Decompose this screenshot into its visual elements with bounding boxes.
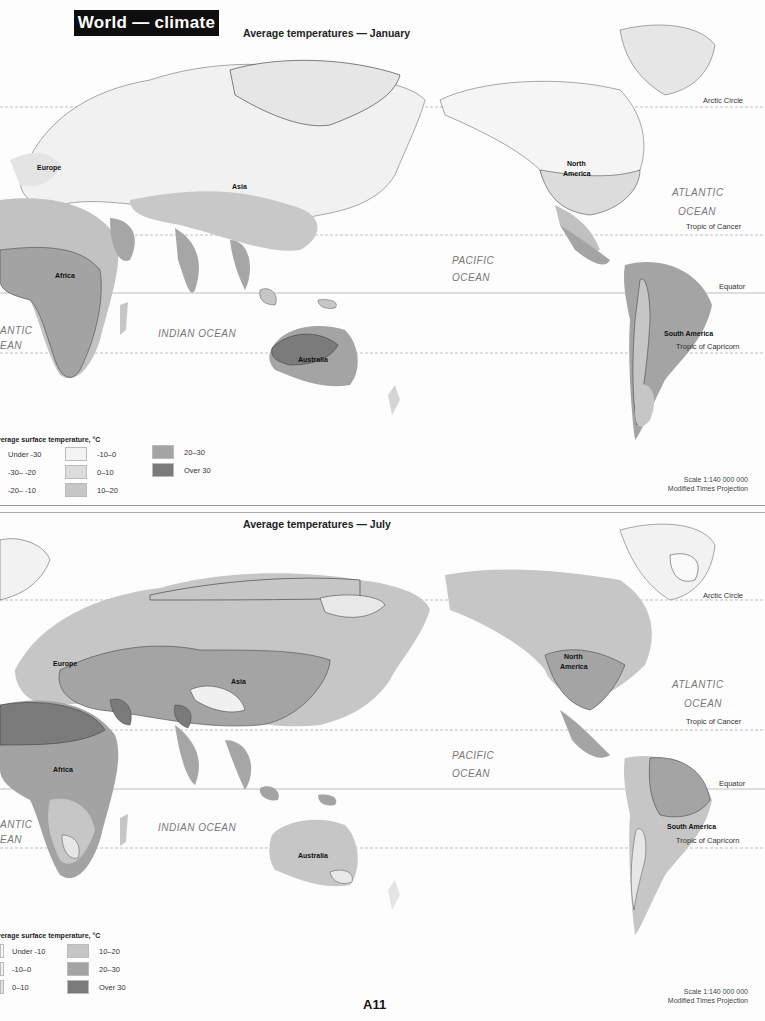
label-north-america-jul: North [564,653,583,660]
scale-text-jul: Scale 1:140 000 000 [668,987,748,996]
label-north-america-jul-2: America [560,663,588,670]
legend-item: -10–0 [0,962,31,976]
label-north-america-jan-2: America [563,170,591,177]
tropic-capricorn-label-jul: Tropic of Capricorn [676,836,740,845]
legend-item: 10–20 [67,944,120,958]
ocean-atlantic-jul: ATLANTIC [672,679,724,690]
ocean-atlantic-west-jul: ANTIC [0,819,33,830]
legend-swatch [67,944,89,958]
equator-label-jan: Equator [719,282,745,291]
label-australia-jan: Australia [298,356,328,363]
legend-swatch [0,944,4,958]
ocean-pacific-jan: PACIFIC [452,255,494,266]
legend-item: -20– -10 [8,486,36,495]
legend-swatch [65,447,87,461]
projection-text-jan: Modified Times Projection [668,484,748,493]
legend-item: Under -30 [8,450,41,459]
legend-item: 20–30 [67,962,120,976]
legend-item: 10–20 [65,483,118,497]
ocean-atlantic-west-jan: ANTIC [0,325,33,336]
legend-item: 20–30 [152,445,205,459]
july-legend: Average surface temperature, °C Under -1… [0,932,260,992]
ocean-atlantic-west-jan-2: EAN [0,340,22,351]
legend-item: Over 30 [152,463,211,477]
page-number: A11 [363,997,386,1012]
label-south-america-jan: South America [664,330,713,337]
scale-jul: Scale 1:140 000 000 Modified Times Proje… [668,987,748,1005]
ocean-indian-jan: INDIAN OCEAN [158,328,236,339]
ocean-atlantic-jan: ATLANTIC [672,187,724,198]
tropic-cancer-label-jul: Tropic of Cancer [686,717,741,726]
ocean-pacific-jan-2: OCEAN [452,272,490,283]
legend-swatch [0,980,4,994]
ocean-pacific-jul: PACIFIC [452,750,494,761]
label-south-america-jul: South America [667,823,716,830]
equator-label-jul: Equator [719,779,745,788]
label-asia-jan: Asia [232,183,247,190]
legend-item: 0–10 [0,980,29,994]
label-australia-jul: Australia [298,852,328,859]
legend-swatch [152,463,174,477]
arctic-circle-label-jan: Arctic Circle [703,96,743,105]
tropic-cancer-label-jan: Tropic of Cancer [686,222,741,231]
legend-heading-jan: Average surface temperature, °C [0,436,100,443]
january-map [0,0,765,500]
legend-item: Under -10 [0,944,45,958]
legend-swatch [65,465,87,479]
ocean-pacific-jul-2: OCEAN [452,768,490,779]
label-europe-jan: Europe [37,164,61,171]
label-asia-jul: Asia [231,678,246,685]
scale-jan: Scale 1:140 000 000 Modified Times Proje… [668,475,748,493]
label-europe-jul: Europe [53,660,77,667]
ocean-atlantic-jan-2: OCEAN [678,206,716,217]
legend-swatch [65,483,87,497]
arctic-circle-label-jul: Arctic Circle [703,591,743,600]
label-africa-jan: Africa [55,272,75,279]
legend-heading-jul: Average surface temperature, °C [0,932,100,939]
january-legend: Average surface temperature, °C Under -3… [0,436,260,496]
tropic-capricorn-label-jan: Tropic of Capricorn [676,342,740,351]
legend-swatch [0,962,4,976]
scale-text-jan: Scale 1:140 000 000 [668,475,748,484]
legend-swatch [152,445,174,459]
projection-text-jul: Modified Times Projection [668,996,748,1005]
ocean-indian-jul: INDIAN OCEAN [158,822,236,833]
legend-item: -10–0 [65,447,116,461]
ocean-atlantic-west-jul-2: EAN [0,834,22,845]
legend-item: 0–10 [65,465,114,479]
label-north-america-jan: North [567,160,586,167]
legend-item: -30– -20 [8,468,36,477]
ocean-atlantic-jul-2: OCEAN [684,698,722,709]
legend-swatch [67,962,89,976]
legend-swatch [67,980,89,994]
legend-item: Over 30 [67,980,126,994]
label-africa-jul: Africa [53,766,73,773]
july-map [0,500,765,1000]
